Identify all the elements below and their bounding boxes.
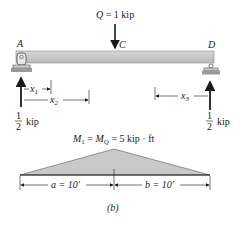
svg-text:kip: kip bbox=[26, 116, 39, 127]
svg-text:kip: kip bbox=[217, 116, 230, 127]
dimension-x3: x3 bbox=[155, 87, 208, 103]
dimension-x1: x1 bbox=[24, 80, 51, 96]
point-label-c: C bbox=[119, 39, 126, 50]
x1-label: x1 bbox=[29, 83, 38, 96]
beam bbox=[16, 51, 214, 63]
beam-diagram: Q = 1 kip A C D x1 x2 x3 bbox=[0, 0, 245, 226]
reaction-label-right: 1 2 kip bbox=[206, 110, 230, 132]
svg-text:1: 1 bbox=[207, 110, 212, 121]
a-label: a = 10′ bbox=[51, 179, 81, 190]
figure-caption: (b) bbox=[107, 202, 119, 214]
point-label-d: D bbox=[207, 39, 216, 50]
load-label: Q = 1 kip bbox=[96, 9, 134, 20]
point-label-a: A bbox=[16, 38, 24, 49]
x2-label: x2 bbox=[49, 94, 58, 107]
moment-label: M1 = MQ = 5 kip · ft bbox=[72, 133, 154, 146]
b-label: b = 10′ bbox=[145, 179, 175, 190]
svg-text:1: 1 bbox=[16, 110, 21, 121]
svg-text:2: 2 bbox=[16, 121, 21, 132]
roller-support-right bbox=[202, 64, 220, 75]
svg-text:2: 2 bbox=[207, 121, 212, 132]
reaction-label-left: 1 2 kip bbox=[15, 110, 39, 132]
x3-label: x3 bbox=[180, 90, 189, 103]
moment-diagram-triangle bbox=[20, 149, 210, 175]
dimension-b: b = 10′ bbox=[115, 176, 210, 190]
